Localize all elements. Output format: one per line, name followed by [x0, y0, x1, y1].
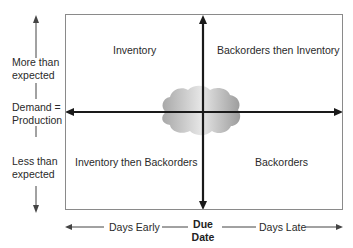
date-line: Date — [190, 231, 216, 244]
quadrant-top-right-label: Backorders then Inventory — [217, 44, 340, 56]
due-date-label: Due Date — [190, 218, 216, 244]
quadrant-top-left-label: Inventory — [113, 44, 156, 56]
more-than-expected-label: More than expected — [12, 56, 59, 82]
days-late-label: Days Late — [259, 221, 306, 233]
quadrant-bottom-left-label: Inventory then Backorders — [75, 156, 198, 168]
quadrant-bottom-right-label: Backorders — [255, 156, 308, 168]
y-axis-up-arrow-icon — [33, 15, 39, 58]
production-line: Production — [12, 114, 62, 127]
expected-line: expected — [12, 69, 59, 82]
expected-line-lower: expected — [12, 168, 58, 181]
demand-equals-production-label: Demand = Production — [12, 101, 62, 127]
more-than-line: More than — [12, 56, 59, 69]
less-than-expected-label: Less than expected — [12, 155, 58, 181]
demand-line: Demand = — [12, 101, 62, 114]
days-early-label: Days Early — [109, 221, 160, 233]
due-line: Due — [190, 218, 216, 231]
less-than-line: Less than — [12, 155, 58, 168]
y-axis-down-arrow-icon — [33, 186, 39, 213]
